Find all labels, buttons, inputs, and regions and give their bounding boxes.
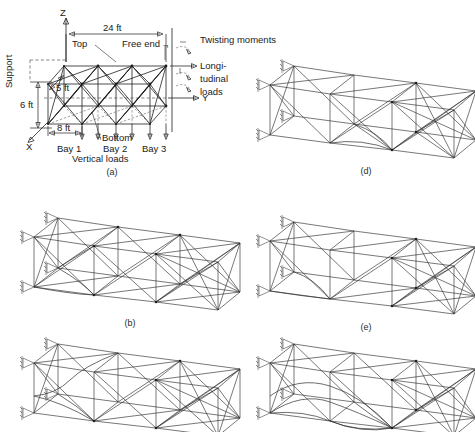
axis-z-label: Z [60,7,66,18]
panel-d-caption: (d) [361,166,372,176]
figure-root: Z Y X 24 ft 6 ft [0,0,475,432]
bay-1-label: Bay 1 [57,143,81,154]
panel-b-caption: (b) [125,318,136,328]
free-end-tick-icon: ¬ [163,41,168,51]
longitudinal-loads-label-line1: Longi- [200,60,226,71]
support-label: Support [3,54,14,88]
dimension-length-label: 24 ft [103,22,122,33]
dimension-bay-label: 8 ft [57,122,71,133]
bay-2-label: Bay 2 [103,143,127,154]
dimension-height-label: 6 ft [20,99,34,110]
canvas-background [0,0,475,432]
longitudinal-loads-label-line2: tudinal [200,73,228,84]
axis-x-label: X [26,141,33,152]
vertical-loads-label: Vertical loads [72,153,129,164]
twisting-moments-label-line1: Twisting moments [200,34,276,45]
top-label: Top [72,38,87,49]
panel-e-caption: (e) [361,322,372,332]
bay-3-label: Bay 3 [142,143,166,154]
dimension-width-label: 5 ft [56,82,70,93]
panel-a-caption: (a) [107,167,118,177]
longitudinal-loads-label-line3: loads [200,86,223,97]
free-end-label: Free end [122,38,160,49]
figure-svg: Z Y X 24 ft 6 ft [0,0,475,432]
